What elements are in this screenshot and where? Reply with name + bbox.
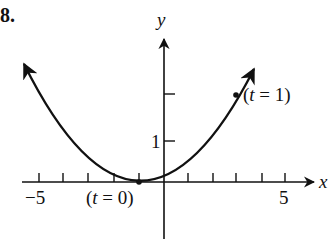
x-tick-label-5: 5 — [279, 187, 289, 208]
point-t0 — [136, 179, 142, 185]
y-tick-label-1: 1 — [151, 131, 161, 152]
point-t1 — [233, 92, 239, 98]
annotation-t1: (t = 1) — [243, 84, 291, 106]
x-tick-label-neg5: −5 — [25, 187, 45, 208]
annotation-t0: (t = 0) — [86, 187, 134, 209]
problem-number: 8. — [0, 4, 15, 26]
parabola-figure: 8. x y −5 5 1 (t = 0) (t = 1) — [0, 0, 334, 239]
y-ticks — [164, 94, 175, 141]
y-axis-label: y — [155, 9, 166, 30]
x-axis-label: x — [318, 171, 328, 192]
parabola-curve — [24, 64, 254, 181]
